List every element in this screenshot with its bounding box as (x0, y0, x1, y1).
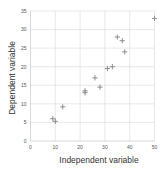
x-tick-label: 20 (77, 144, 83, 150)
plus-marker-icon (60, 104, 65, 109)
x-tick-label: 50 (152, 144, 158, 150)
y-tick-label: 0 (24, 138, 27, 144)
plus-marker-icon (152, 16, 157, 21)
x-tick-label: 40 (127, 144, 133, 150)
y-tick-label: 30 (21, 26, 27, 32)
scatter-chart: 01020304050 05101520253035 Independent v… (0, 0, 167, 174)
x-tick-label: 30 (102, 144, 108, 150)
plus-marker-icon (122, 49, 127, 54)
plus-marker-icon (92, 75, 97, 80)
y-tick-labels: 05101520253035 (21, 8, 27, 144)
x-tick-labels: 01020304050 (29, 144, 157, 150)
y-tick-label: 15 (21, 82, 27, 88)
y-axis-title: Dependent variable (7, 41, 17, 115)
x-tick-label: 10 (53, 144, 59, 150)
y-tick-label: 35 (21, 8, 27, 14)
plus-marker-icon (120, 38, 125, 43)
y-tick-label: 20 (21, 64, 27, 70)
y-tick-label: 10 (21, 101, 27, 107)
x-axis-title: Independent variable (59, 155, 139, 165)
plus-marker-icon (53, 119, 58, 124)
plus-marker-icon (50, 116, 55, 121)
plus-marker-icon (115, 34, 120, 39)
grid-lines (31, 11, 155, 141)
axes (31, 11, 155, 141)
y-tick-label: 25 (21, 45, 27, 51)
y-tick-label: 5 (24, 119, 27, 125)
plus-marker-icon (110, 64, 115, 69)
data-points (50, 16, 157, 124)
x-tick-label: 0 (29, 144, 32, 150)
